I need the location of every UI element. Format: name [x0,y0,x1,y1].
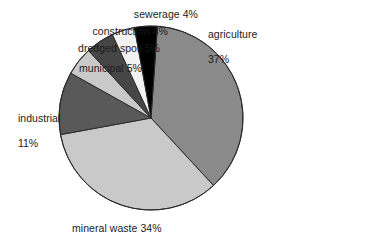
pie-chart-figure: sewerage 4% construction 4% dredged spoi… [0,0,367,245]
slice-label-industrial: industrial 11% [6,99,76,162]
slice-label-agriculture-name: agriculture [208,28,258,40]
slice-label-mineral-waste: mineral waste 34% [72,222,242,235]
slice-label-industrial-name: industrial [18,112,61,124]
slice-label-sewerage: sewerage 4% [88,8,198,21]
slice-label-dredged-spoil: dredged spoil 5% [10,42,160,55]
slice-label-agriculture-value: 37% [208,53,229,65]
slice-label-agriculture: agriculture 37% [196,15,316,78]
slice-label-industrial-value: 11% [18,137,38,149]
slice-label-municipal: municipal 5% [10,62,142,75]
slice-label-construction: construction 4% [36,25,168,38]
